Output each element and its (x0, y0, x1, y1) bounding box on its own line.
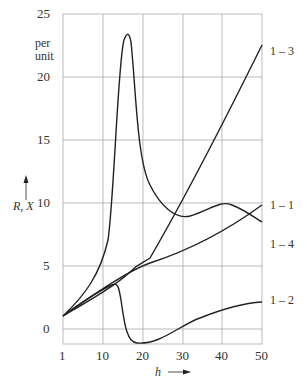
series-label-1-2: 1 – 2 (270, 293, 294, 307)
x-axis-arrow-icon (168, 370, 191, 375)
series-1-3-line (63, 45, 262, 316)
y-tick: 15 (37, 132, 50, 147)
x-tick: 10 (96, 348, 109, 363)
x-tick: 20 (136, 348, 149, 363)
y-tick: 10 (37, 195, 50, 210)
x-tick: 1 (59, 348, 66, 363)
series-label-1-4: 1 – 4 (270, 237, 294, 251)
y-axis-arrow-icon (24, 175, 29, 200)
x-tick: 30 (176, 348, 189, 363)
y-unit-line2: unit (35, 49, 54, 63)
x-tick: 50 (255, 348, 268, 363)
series-1-2-line (63, 284, 262, 343)
y-axis-label: R, X (12, 199, 34, 213)
y-tick: 5 (43, 258, 50, 273)
y-tick: 20 (37, 69, 50, 84)
x-axis-label: h (155, 365, 161, 379)
y-unit-line1: per (35, 36, 50, 50)
y-tick: 25 (37, 6, 50, 21)
series-label-1-1: 1 – 1 (270, 198, 294, 212)
series-label-1-3: 1 – 3 (270, 44, 294, 58)
x-tick: 40 (215, 348, 228, 363)
chart: 0 5 10 15 20 25 per unit R, X 1 10 20 30… (0, 0, 307, 381)
y-tick: 0 (43, 321, 50, 336)
x-ticks: 1 10 20 30 40 50 (59, 348, 268, 363)
grid (63, 14, 262, 344)
series-1-4-line (63, 34, 262, 316)
series-1-1-line (63, 205, 262, 316)
